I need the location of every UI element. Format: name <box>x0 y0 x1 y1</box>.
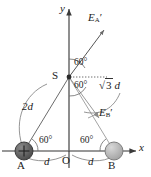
point-label-S: S <box>52 70 58 81</box>
point-label-A: A <box>17 160 25 171</box>
vector-EA-prime <box>69 30 104 77</box>
point-label-B: B <box>108 160 115 171</box>
angle-label-S-lower: 60° <box>74 81 87 91</box>
axis-label-x: x <box>139 142 144 153</box>
point-label-O: O <box>62 155 70 166</box>
vector-label-EA-base: E <box>88 11 95 23</box>
radical-unit: d <box>115 79 121 91</box>
vector-label-EB-base: E <box>99 106 106 118</box>
vector-label-EB-prime-mark: ′ <box>110 106 112 118</box>
physics-vector-diagram: y x S O A B EA′ EB′ 60° 60° 60° 60° 2d √… <box>0 0 151 177</box>
vector-label-EA-prime-mark: ′ <box>100 11 102 23</box>
distance-label-2d: 2d <box>22 101 33 112</box>
angle-label-A: 60° <box>39 136 52 146</box>
distance-label-d-left: d <box>44 156 50 167</box>
axis-label-y: y <box>60 3 65 14</box>
angle-label-S-upper: 60° <box>74 58 87 68</box>
charge-A <box>15 142 33 160</box>
distance-label-d-right: d <box>88 156 94 167</box>
angle-label-B: 60° <box>80 136 93 146</box>
vector-label-EB-prime: EB′ <box>99 107 113 119</box>
point-S-marker <box>67 75 72 80</box>
vector-label-EA-prime: EA′ <box>88 12 102 24</box>
charge-B <box>105 142 123 160</box>
distance-label-sqrt3d: √3d <box>99 80 120 91</box>
radicand: 3 <box>105 78 113 91</box>
